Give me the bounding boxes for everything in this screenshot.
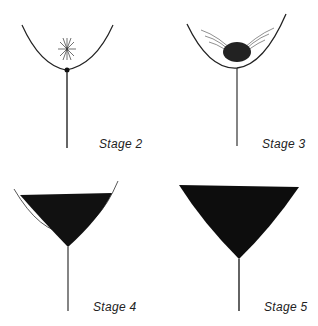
stage-2-label: Stage 2	[99, 137, 142, 151]
panel-stage-3: Stage 3	[159, 0, 318, 163]
stage-3-label: Stage 3	[262, 137, 305, 151]
panel-stage-2: Stage 2	[0, 0, 159, 163]
panel-stage-5: Stage 5	[159, 163, 318, 326]
stage-5-label: Stage 5	[264, 300, 307, 314]
stage-4-label: Stage 4	[93, 300, 136, 314]
panel-stage-4: Stage 4	[0, 163, 159, 326]
